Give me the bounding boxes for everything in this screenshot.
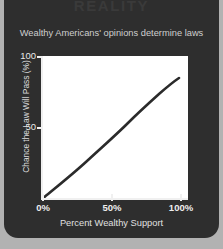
page-title: REALITY <box>4 0 219 13</box>
x-tick-label-100: 100% <box>156 202 206 213</box>
chart-card: REALITY Wealthy Americans' opinions dete… <box>4 0 219 238</box>
x-tick-0 <box>42 194 44 201</box>
line-series-path <box>43 56 188 198</box>
x-tick-label-0: 0% <box>18 202 68 213</box>
x-tick-50 <box>111 194 113 201</box>
y-tick-50 <box>37 127 43 129</box>
y-axis-title: Chance the Law Will Pass (%) <box>22 47 31 187</box>
y-tick-100 <box>37 56 43 58</box>
x-axis-title: Percent Wealthy Support <box>4 218 219 229</box>
chart-subtitle: Wealthy Americans' opinions determine la… <box>4 28 219 39</box>
plot-area <box>43 56 188 198</box>
x-tick-label-50: 50% <box>87 202 137 213</box>
reality-chart-figure: REALITY Wealthy Americans' opinions dete… <box>0 0 223 249</box>
x-tick-100 <box>180 194 182 201</box>
x-axis-line <box>41 198 188 200</box>
